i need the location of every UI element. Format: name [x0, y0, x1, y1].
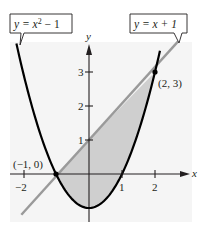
callout-line: y = x + 1: [130, 14, 187, 43]
x-tick-label-2: 2: [152, 181, 158, 193]
graph-figure: −2 1 2 1 2 3 x y (−1, 0) (2, 3) y = x2 −…: [0, 0, 204, 228]
y-axis-label: y: [85, 30, 91, 42]
callout-parabola-suffix: − 1: [42, 18, 60, 30]
x-tick-label-1: 1: [119, 181, 125, 193]
point-label-2-3: (2, 3): [158, 77, 182, 90]
svg-text:y = x2 − 1: y = x2 − 1: [13, 17, 60, 31]
callout-parabola-text: y = x: [13, 18, 39, 31]
intersection-point-2-3: [152, 69, 157, 74]
callout-parabola: y = x2 − 1: [10, 14, 72, 45]
x-axis-label: x: [191, 167, 197, 179]
y-tick-label-1: 1: [78, 134, 84, 146]
intersection-point-neg1-0: [53, 171, 58, 176]
point-label-neg1-0: (−1, 0): [13, 158, 43, 171]
y-tick-label-2: 2: [78, 100, 84, 112]
callout-line-text: y = x + 1: [133, 18, 177, 31]
y-tick-label-3: 3: [78, 66, 84, 78]
x-tick-label-neg2: −2: [15, 181, 27, 193]
